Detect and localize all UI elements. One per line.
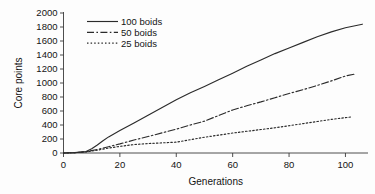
- x-tick-label: 40: [171, 159, 182, 170]
- y-tick-label: 1000: [36, 77, 57, 88]
- y-tick-label: 400: [42, 119, 58, 130]
- x-tick-label: 0: [61, 159, 66, 170]
- y-axis-title: Core points: [13, 57, 24, 108]
- y-tick-label: 800: [42, 91, 58, 102]
- y-tick-label: 1800: [36, 21, 57, 32]
- x-axis-title: Generations: [189, 176, 243, 187]
- legend-label-2: 50 boids: [121, 27, 157, 38]
- x-tick-label: 100: [338, 159, 354, 170]
- x-tick-label: 60: [227, 159, 238, 170]
- y-tick-label: 1600: [36, 35, 57, 46]
- line-chart: 0200400600800100012001400160018002000 02…: [0, 0, 375, 194]
- y-tick-label: 600: [42, 105, 58, 116]
- y-tick-label: 1200: [36, 63, 57, 74]
- y-tick-label: 0: [52, 147, 57, 158]
- x-tick-label: 20: [115, 159, 126, 170]
- x-tick-label: 80: [284, 159, 295, 170]
- chart-figure: 0200400600800100012001400160018002000 02…: [0, 0, 375, 194]
- legend-label-1: 100 boids: [121, 16, 162, 27]
- legend-label-3: 25 boids: [121, 38, 157, 49]
- y-tick-label: 1400: [36, 49, 57, 60]
- y-tick-label: 2000: [36, 7, 57, 18]
- y-tick-label: 200: [42, 133, 58, 144]
